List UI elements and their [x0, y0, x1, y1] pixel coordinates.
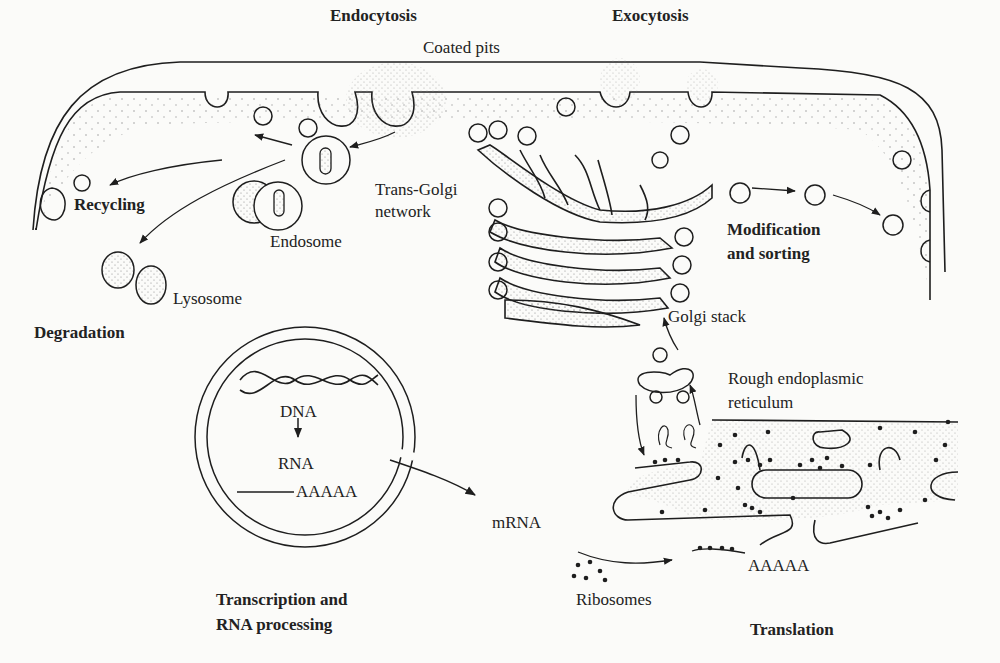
label-transcription-2: RNA processing — [216, 615, 332, 635]
label-endocytosis: Endocytosis — [330, 6, 417, 26]
label-transcription-1: Transcription and — [216, 590, 347, 610]
label-degradation: Degradation — [34, 323, 125, 343]
label-rough-er-2: reticulum — [728, 393, 793, 413]
cell-diagram — [0, 0, 1000, 663]
label-exocytosis: Exocytosis — [612, 6, 689, 26]
label-ribosomes: Ribosomes — [576, 590, 652, 610]
lysosome — [102, 252, 166, 304]
label-recycling: Recycling — [74, 195, 145, 215]
endosome — [233, 136, 350, 230]
label-lysosome: Lysosome — [173, 289, 242, 309]
label-coated-pits: Coated pits — [423, 38, 500, 58]
nucleus — [195, 327, 475, 547]
label-mrna: mRNA — [492, 513, 541, 533]
label-modification-1: Modification — [727, 220, 821, 240]
label-trans-golgi-2: network — [375, 202, 431, 222]
rough-er — [613, 420, 958, 553]
label-dna: DNA — [280, 402, 317, 422]
label-modification-2: and sorting — [727, 244, 810, 264]
coated-pit-shading — [346, 62, 446, 138]
ribosomes-free — [572, 560, 608, 583]
label-rough-er-1: Rough endoplasmic — [728, 369, 864, 389]
label-rna: RNA — [278, 454, 314, 474]
label-polya-cytoplasm: AAAAA — [748, 556, 809, 576]
label-endosome: Endosome — [270, 232, 342, 252]
label-translation: Translation — [750, 620, 834, 640]
label-golgi-stack: Golgi stack — [668, 307, 746, 327]
golgi-stack — [478, 145, 712, 327]
label-trans-golgi-1: Trans-Golgi — [375, 180, 458, 200]
label-polya-nucleus: AAAAA — [296, 482, 357, 502]
